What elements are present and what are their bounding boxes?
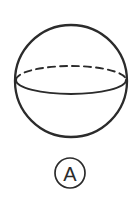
label-badge-letter: A — [63, 163, 77, 185]
equator-front-solid-arc — [16, 80, 126, 94]
sphere-diagram: A — [0, 0, 138, 197]
equator-back-dashed-arc — [16, 66, 126, 80]
sphere-outline-circle — [15, 25, 127, 137]
figure-container: A — [0, 0, 138, 197]
